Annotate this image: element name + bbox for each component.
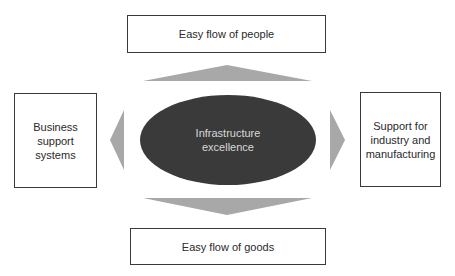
bottom-box: Easy flow of goods bbox=[130, 228, 326, 265]
arrow-left-icon bbox=[110, 110, 124, 170]
left-box-line3: systems bbox=[33, 148, 78, 162]
center-label: Infrastructure excellence bbox=[140, 95, 316, 185]
center-label-line2: excellence bbox=[196, 140, 261, 154]
arrow-up-icon bbox=[143, 65, 312, 81]
right-box-line1: Support for bbox=[366, 119, 436, 133]
top-box: Easy flow of people bbox=[127, 15, 326, 53]
left-box-line1: Business bbox=[33, 120, 78, 134]
left-box: Business support systems bbox=[14, 93, 97, 188]
right-box: Support for industry and manufacturing bbox=[360, 92, 441, 187]
right-box-line3: manufacturing bbox=[366, 147, 436, 161]
bottom-box-label: Easy flow of goods bbox=[182, 240, 274, 254]
left-box-line2: support bbox=[33, 134, 78, 148]
center-label-line1: Infrastructure bbox=[196, 126, 261, 140]
top-box-label: Easy flow of people bbox=[179, 27, 274, 41]
arrow-right-icon bbox=[330, 110, 345, 170]
right-box-line2: industry and bbox=[366, 133, 436, 147]
arrow-down-icon bbox=[143, 198, 312, 215]
